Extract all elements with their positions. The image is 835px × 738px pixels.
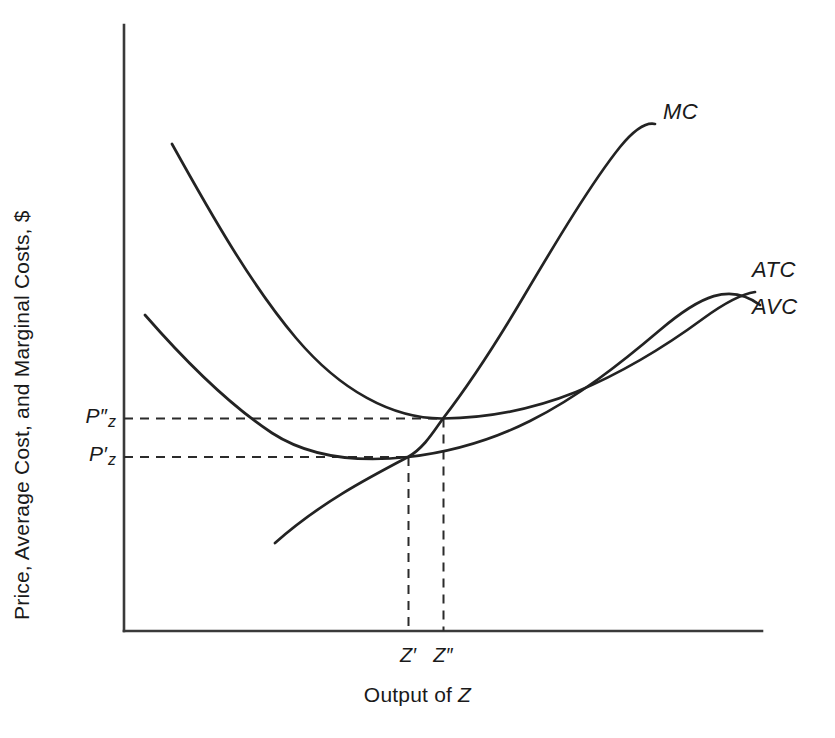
cost-curves-final: [145, 124, 760, 543]
x-tick-z2-prime: ″: [446, 644, 453, 666]
x-tick-z1-base: Z: [400, 644, 412, 666]
y-axis-title: Price, Average Cost, and Marginal Costs,…: [11, 10, 45, 620]
x-axis-title-prefix: Output of: [364, 683, 458, 706]
x-axis-title: Output of Z: [364, 684, 471, 705]
curve-label-avc: AVC: [752, 296, 798, 318]
y-tick-p1-subscript: z: [107, 451, 116, 468]
x-tick-z1-prime: ′: [412, 644, 416, 666]
cost-curves-figure: #cost-curves-legacy { display: none; } M…: [0, 0, 835, 738]
y-tick-p2-subscript: z: [107, 413, 116, 430]
plot-area: #cost-curves-legacy { display: none; }: [0, 0, 835, 738]
x-tick-label-z-double-prime: Z″: [418, 645, 468, 665]
y-tick-p2-prime: ″: [100, 404, 107, 427]
x-tick-z2-base: Z: [433, 644, 445, 666]
guide-lines: [124, 419, 444, 632]
x-axis-title-variable: Z: [458, 683, 471, 706]
y-tick-p1-base: P: [89, 442, 103, 465]
y-tick-label-p-double-prime: P″z: [44, 405, 116, 430]
curve-label-atc: ATC: [752, 259, 796, 281]
mc-curve: [275, 124, 655, 543]
curve-label-mc: MC: [663, 101, 698, 123]
y-tick-label-p-prime: P′z: [44, 443, 116, 468]
avc-curve: [145, 294, 760, 459]
atc-curve: [172, 144, 755, 419]
y-tick-p2-base: P: [86, 404, 100, 427]
